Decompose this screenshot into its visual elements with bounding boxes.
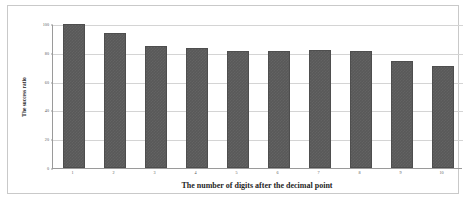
bar-slot bbox=[258, 24, 299, 168]
bar-slot bbox=[176, 24, 217, 168]
bar-slot bbox=[422, 24, 463, 168]
x-tick-label: 1 bbox=[52, 171, 93, 175]
bar bbox=[309, 50, 331, 168]
bar bbox=[186, 48, 208, 168]
y-tick-label: 40 bbox=[45, 109, 49, 113]
bar-slot bbox=[94, 24, 135, 168]
x-tick-label: 3 bbox=[134, 171, 175, 175]
bar-slot bbox=[299, 24, 340, 168]
y-tick-label: 0 bbox=[47, 167, 49, 171]
bar bbox=[145, 46, 167, 168]
bar bbox=[104, 33, 126, 168]
x-tick-label: 8 bbox=[339, 171, 380, 175]
x-tick-label: 5 bbox=[216, 171, 257, 175]
bar-series bbox=[53, 24, 463, 168]
y-tick-label: 100 bbox=[43, 23, 49, 27]
bar bbox=[227, 51, 249, 168]
bar bbox=[432, 66, 454, 168]
y-tick-label: 20 bbox=[45, 138, 49, 142]
y-tick-label: 60 bbox=[45, 80, 49, 84]
bar-slot bbox=[381, 24, 422, 168]
bar-slot bbox=[340, 24, 381, 168]
y-tick-mark bbox=[51, 169, 53, 170]
y-tick-label: 80 bbox=[45, 52, 49, 56]
figure-frame: The success ratio 020406080100 123456789… bbox=[7, 5, 459, 194]
x-tick-label: 6 bbox=[257, 171, 298, 175]
x-tick-label: 10 bbox=[421, 171, 462, 175]
bar bbox=[268, 51, 290, 168]
x-tick-label: 7 bbox=[298, 171, 339, 175]
x-axis-tick-labels: 12345678910 bbox=[52, 171, 462, 175]
bar bbox=[350, 51, 372, 168]
bar bbox=[63, 24, 85, 168]
x-tick-label: 2 bbox=[93, 171, 134, 175]
x-axis-title: The number of digits after the decimal p… bbox=[52, 181, 462, 190]
bar-slot bbox=[217, 24, 258, 168]
x-tick-label: 4 bbox=[175, 171, 216, 175]
x-tick-label: 9 bbox=[380, 171, 421, 175]
bar-slot bbox=[53, 24, 94, 168]
bar-slot bbox=[135, 24, 176, 168]
chart-figure: The success ratio 020406080100 123456789… bbox=[0, 0, 466, 201]
plot-area: 020406080100 bbox=[52, 25, 462, 169]
y-axis-title: The success ratio bbox=[21, 25, 31, 169]
bar bbox=[391, 61, 413, 168]
